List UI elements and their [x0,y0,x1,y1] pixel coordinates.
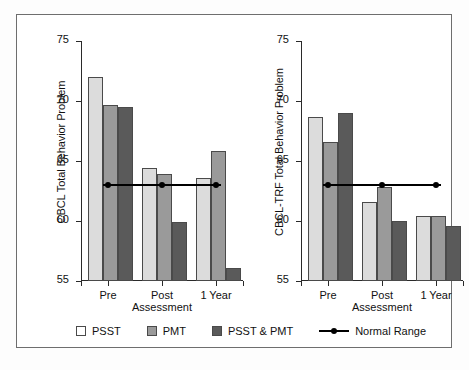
y-tick-label: 75 [57,33,69,45]
legend-item: PSST [76,325,121,337]
y-axis-title: CBCL-TRF Total Behavior Problem [273,27,291,277]
figure: CBCL Total Behavior Problem 5560657075 P… [0,0,469,370]
y-tick-label: 70 [277,93,289,105]
y-tick-label: 75 [277,33,289,45]
y-tick-label: 60 [57,213,69,225]
x-tick [436,281,437,286]
x-tick [243,281,244,286]
bar [157,174,172,281]
chart-legend: PSSTPMTPSST & PMTNormal Range [33,320,469,342]
x-tick [81,281,82,286]
x-tick-label: Pre [81,289,135,301]
bar [118,107,133,281]
legend-label: PSST [92,325,121,337]
x-tick [328,281,329,286]
x-tick-label: Post [355,289,409,301]
bar-group: PrePost1 Year [81,41,243,281]
bar [446,226,461,281]
y-tick-label: 70 [57,93,69,105]
x-tick [162,281,163,286]
bar [338,113,353,281]
legend-label: PMT [163,325,186,337]
bar [308,117,323,281]
bar [172,222,187,281]
legend-label: PSST & PMT [228,325,293,337]
x-tick [108,281,109,286]
x-tick-label: 1 Year [409,289,463,301]
x-tick-label: Post [135,289,189,301]
bar [196,178,211,281]
legend-item: PMT [147,325,186,337]
bar [88,77,103,281]
figure-frame: CBCL Total Behavior Problem 5560657075 P… [16,14,452,348]
bar [416,216,431,281]
x-axis-title: Assessment [301,301,463,313]
bar [142,168,157,281]
bar [211,151,226,281]
legend-item: PSST & PMT [212,325,293,337]
x-tick [463,281,464,286]
x-tick [216,281,217,286]
y-axis-title: CBCL Total Behavior Problem [55,27,73,277]
bar [362,202,377,281]
y-tick-label: 60 [277,213,289,225]
plot-area: 5560657075 PrePost1 Year [301,41,463,281]
x-axis-title: Assessment [81,301,243,313]
legend-label: Normal Range [355,325,426,337]
y-tick-label: 65 [277,153,289,165]
bar [377,187,392,281]
legend-swatch-icon [212,326,222,336]
bar [226,268,241,281]
y-tick-label: 55 [57,273,69,285]
chart-panel-cbcl-trf: CBCL-TRF Total Behavior Problem 55606570… [253,15,469,315]
x-tick [382,281,383,286]
legend-swatch-icon [147,326,157,336]
bar [392,221,407,281]
legend-line-icon [319,326,349,336]
plot-area: 5560657075 PrePost1 Year [81,41,243,281]
bar [323,142,338,281]
y-tick-label: 55 [277,273,289,285]
bar-group: PrePost1 Year [301,41,463,281]
bar [103,105,118,281]
x-tick-label: Pre [301,289,355,301]
legend-item: Normal Range [319,325,426,337]
bar [431,216,446,281]
x-tick [301,281,302,286]
chart-panel-cbcl: CBCL Total Behavior Problem 5560657075 P… [33,15,253,315]
x-tick-label: 1 Year [189,289,243,301]
y-tick-label: 65 [57,153,69,165]
legend-swatch-icon [76,326,86,336]
